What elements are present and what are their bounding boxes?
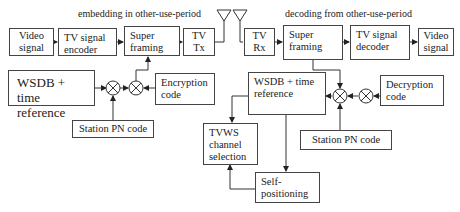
self-positioning-block: Self-positioning: [255, 172, 320, 203]
tv-tx-block: TV Tx: [183, 28, 215, 56]
tx-video-signal-block: Video signal: [9, 28, 54, 56]
tv-signal-decoder-block: TV signal decoder: [350, 25, 410, 60]
rx-video-signal-block: Video signal: [418, 28, 454, 56]
receive-caption: decoding from other-use-period: [285, 8, 412, 19]
rx-wsdb-block: WSDB + time reference: [248, 72, 326, 115]
tvws-channel-selection-block: TVWS channel selection: [203, 123, 258, 165]
tx-wsdb-block: WSDB + time reference: [8, 70, 95, 106]
tv-signal-encoder-block: TV signal encoder: [58, 28, 117, 56]
rx-station-pn-code-block: Station PN code: [300, 130, 392, 150]
tv-rx-block: TV Rx: [244, 28, 275, 56]
tx-super-framing-block: Super framing: [124, 26, 180, 56]
rx-super-framing-block: Super framing: [283, 25, 343, 60]
transmit-caption: embedding in other-use-period: [78, 8, 201, 19]
decryption-code-block: Decryption code: [380, 75, 444, 106]
encryption-code-block: Encryption code: [155, 73, 215, 105]
tx-station-pn-code-block: Station PN code: [72, 120, 154, 138]
